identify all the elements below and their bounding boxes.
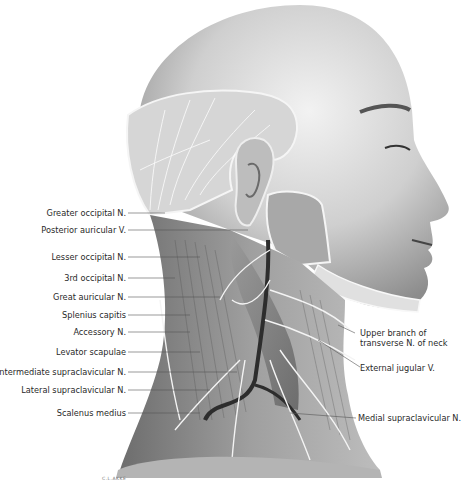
label-greater-occipital-n: Greater occipital N. <box>47 208 126 218</box>
label-lesser-occipital-n: Lesser occipital N. <box>51 252 126 262</box>
label-line-1: Upper branch of <box>360 328 448 338</box>
label-medial-supraclavicular-n: Medial supraclavicular N. <box>358 413 461 423</box>
label-posterior-auricular-v: Posterior auricular V. <box>41 225 126 235</box>
anatomy-figure: Greater occipital N. Posterior auricular… <box>0 0 462 489</box>
label-lateral-supraclavicular-n: Lateral supraclavicular N. <box>21 385 126 395</box>
label-levator-scapulae: Levator scapulae <box>56 347 126 357</box>
label-external-jugular-v: External jugular V. <box>360 363 435 373</box>
label-third-occipital-n: 3rd occipital N. <box>64 273 126 283</box>
artist-signature: C.L.AKKE <box>102 476 126 481</box>
label-scalenus-medius: Scalenus medius <box>57 408 126 418</box>
label-upper-branch-transverse-n-neck: Upper branch of transverse N. of neck <box>360 328 448 348</box>
label-accessory-n: Accessory N. <box>73 327 126 337</box>
label-splenius-capitis: Splenius capitis <box>62 310 126 320</box>
label-line-2: transverse N. of neck <box>360 338 448 348</box>
label-intermediate-supraclavicular-n: Intermediate supraclavicular N. <box>0 367 126 377</box>
label-great-auricular-n: Great auricular N. <box>53 292 126 302</box>
